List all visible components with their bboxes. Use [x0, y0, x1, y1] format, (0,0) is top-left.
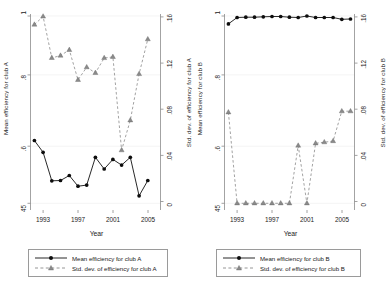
panel-club-a: Mean efficiency for club A Std. dev. of … — [0, 0, 193, 290]
plot-area-club-a — [30, 14, 161, 210]
x-axis-label-a: Year — [0, 230, 193, 237]
y-tick-left-a-2: .8 — [20, 75, 27, 80]
series-stddev-club-a — [32, 14, 150, 152]
figure-root: Mean efficiency for club A Std. dev. of … — [0, 0, 387, 290]
x-tick-b-1993: 1993 — [230, 216, 244, 223]
series-stddev-club-b — [226, 108, 353, 204]
y-tick-left-b-0: 45 — [214, 205, 221, 212]
series-mean-club-a — [33, 139, 150, 198]
series-mean-club-b — [227, 14, 353, 26]
legend-marker-circle-icon — [34, 253, 68, 263]
y-tick-right-a-3: .12 — [166, 60, 173, 69]
y-tick-left-b-1: .6 — [214, 146, 221, 151]
legend-label-stddev-a: Std. dev. of efficiency for club A — [68, 265, 156, 272]
legend-label-mean-a: Mean efficiency for club A — [68, 255, 141, 262]
y-tick-left-b-2: .8 — [214, 75, 221, 80]
x-tick-marks-b — [237, 210, 342, 213]
legend-item-mean-a: Mean efficiency for club A — [34, 253, 162, 263]
legend-item-stddev-b: Std. dev. of efficiency for club B — [222, 263, 355, 273]
y-tick-right-a-4: .16 — [166, 14, 173, 23]
y-axis-label-left-b: Mean efficiency for club B — [196, 62, 203, 135]
legend-marker-triangle-icon — [34, 263, 68, 273]
y-tick-right-a-2: .08 — [166, 106, 173, 115]
y-tick-right-b-1: .04 — [360, 152, 367, 161]
panel-club-b: Mean efficiency for club B Std. dev. of … — [194, 0, 387, 290]
plot-svg-club-a — [30, 14, 161, 210]
x-tick-marks-a — [43, 210, 148, 213]
gridlines-b — [224, 16, 355, 203]
y-tick-marks-a — [28, 16, 164, 203]
y-tick-right-b-3: .12 — [360, 60, 367, 69]
y-tick-left-a-1: .6 — [20, 146, 27, 151]
y-tick-right-b-0: 0 — [360, 203, 367, 207]
y-tick-left-a-3: 1 — [20, 11, 27, 15]
x-axis-label-b: Year — [194, 230, 387, 237]
legend-club-a: Mean efficiency for club A Std. dev. of … — [28, 249, 168, 277]
plot-svg-club-b — [224, 14, 355, 210]
x-tick-b-1997: 1997 — [265, 216, 279, 223]
axis-lines-b — [225, 14, 355, 210]
y-tick-marks-b — [222, 16, 358, 203]
y-axis-label-right-b: Std. dev. of efficiency for club B — [379, 58, 386, 148]
x-tick-a-1993: 1993 — [36, 216, 50, 223]
legend-marker-triangle-icon — [222, 263, 256, 273]
y-axis-label-left-a: Mean efficiency for club A — [2, 62, 9, 135]
legend-marker-circle-icon — [222, 253, 256, 263]
x-tick-a-2001: 2001 — [106, 216, 120, 223]
y-tick-right-b-4: .16 — [360, 14, 367, 23]
y-tick-right-a-0: 0 — [166, 203, 173, 207]
x-tick-b-2005: 2005 — [335, 216, 349, 223]
legend-club-b: Mean efficiency for club B Std. dev. of … — [216, 249, 361, 277]
y-tick-right-a-1: .04 — [166, 152, 173, 161]
x-tick-b-2001: 2001 — [300, 216, 314, 223]
legend-label-stddev-b: Std. dev. of efficiency for club B — [256, 265, 345, 272]
y-tick-left-b-3: 1 — [214, 11, 221, 15]
y-tick-left-a-0: 45 — [20, 205, 27, 212]
y-axis-label-right-a: Std. dev. of efficiency for club A — [185, 58, 192, 147]
legend-label-mean-b: Mean efficiency for club B — [256, 255, 330, 262]
y-tick-right-b-2: .08 — [360, 106, 367, 115]
legend-item-mean-b: Mean efficiency for club B — [222, 253, 355, 263]
x-tick-a-2005: 2005 — [141, 216, 155, 223]
legend-item-stddev-a: Std. dev. of efficiency for club A — [34, 263, 162, 273]
x-tick-a-1997: 1997 — [71, 216, 85, 223]
plot-area-club-b — [224, 14, 355, 210]
